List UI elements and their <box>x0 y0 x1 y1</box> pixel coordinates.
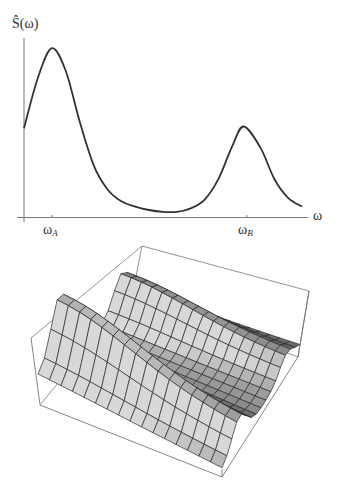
tick-label-omega-a: ωA <box>43 223 58 238</box>
tick-label-omega-b-main: ω <box>238 222 247 237</box>
surface-mesh <box>38 273 300 468</box>
surface-plot-3d <box>31 246 309 477</box>
tick-label-omega-a-main: ω <box>43 222 52 237</box>
spectrum-line-chart <box>17 38 308 222</box>
y-axis-label: Ŝ(ω) <box>12 17 38 31</box>
x-axis-label: ω <box>313 209 322 223</box>
tick-label-omega-b: ωB <box>238 223 253 238</box>
box-edge-right-diagonal <box>298 291 309 357</box>
tick-label-omega-a-sub: A <box>52 228 58 238</box>
spectrum-curve <box>24 48 302 212</box>
tick-label-omega-b-sub: B <box>247 228 253 238</box>
box-edge-top-back-right <box>142 246 309 291</box>
figure-canvas <box>0 0 338 500</box>
